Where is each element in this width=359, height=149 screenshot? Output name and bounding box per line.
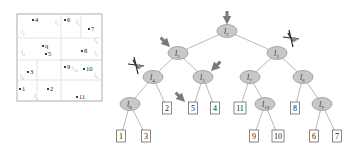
- leaf-node: 4: [211, 102, 220, 114]
- point-dot-icon: [19, 88, 21, 90]
- point-dot-icon: [88, 28, 90, 30]
- point-label: 1: [22, 85, 25, 92]
- leaf-label: 2: [165, 104, 169, 113]
- leaf-node: 5: [189, 102, 198, 114]
- leaf-label: 3: [144, 132, 148, 141]
- tree-node-l3: l3: [267, 47, 287, 60]
- point-label: 5: [48, 50, 51, 57]
- tree-node-l4: l4: [143, 71, 163, 84]
- leaf-node: 10: [272, 130, 284, 142]
- point-label: 3: [30, 68, 33, 75]
- point-dot-icon: [64, 19, 66, 21]
- leaf-label: 5: [191, 104, 195, 113]
- kd-tree-diagram: 467q5891031211 l2l4l8l5l1l3l6l7l10l9 l1l…: [0, 0, 359, 149]
- leaf-label: 9: [252, 132, 256, 141]
- point-label: 10: [86, 65, 93, 72]
- point-dot-icon: [81, 50, 83, 52]
- point-dot-icon: [27, 71, 29, 73]
- kd-tree: l1l2l3l4l5l7l6l8l10l9 2541181391067: [117, 11, 342, 142]
- leaf-label: 1: [119, 132, 123, 141]
- leaf-node: 11: [234, 102, 246, 114]
- leaf-label: 7: [335, 132, 339, 141]
- point-dot-icon: [64, 66, 66, 68]
- tree-node-l10: l10: [255, 98, 275, 111]
- leaf-node: 8: [291, 102, 300, 114]
- pruned-x-icon: [283, 30, 299, 47]
- leaf-label: 6: [312, 132, 316, 141]
- leaf-label: 11: [236, 104, 244, 113]
- leaf-label: 8: [293, 104, 297, 113]
- visit-arrow-icon: [214, 62, 220, 68]
- visit-arrow-icon: [176, 93, 182, 99]
- tree-node-l5: l5: [193, 71, 213, 84]
- leaf-label: 4: [213, 104, 217, 113]
- point-label: 2: [50, 85, 53, 92]
- leaf-nodes: 2541181391067: [117, 102, 342, 142]
- tree-node-l1: l1: [217, 25, 237, 38]
- leaf-node: 7: [333, 130, 342, 142]
- internal-nodes: l1l2l3l4l5l7l6l8l10l9: [120, 25, 332, 111]
- leaf-node: 2: [163, 102, 172, 114]
- tree-node-l6: l6: [293, 71, 313, 84]
- panel-border: [17, 14, 102, 101]
- point-dot-icon: [76, 96, 78, 98]
- tree-node-l7: l7: [240, 71, 260, 84]
- partition-panel: 467q5891031211 l2l4l8l5l1l3l6l7l10l9: [17, 14, 102, 101]
- point-label: 8: [84, 47, 87, 54]
- point-dot-icon: [42, 45, 44, 47]
- leaf-label: 10: [274, 132, 282, 141]
- leaf-node: 6: [310, 130, 319, 142]
- point-dot-icon: [32, 19, 34, 21]
- tree-node-l9: l9: [312, 98, 332, 111]
- tree-node-l2: l2: [168, 47, 188, 60]
- point-dot-icon: [47, 88, 49, 90]
- point-dot-icon: [83, 68, 85, 70]
- leaf-node: 1: [117, 130, 126, 142]
- point-label: 11: [79, 93, 85, 100]
- leaf-node: 3: [142, 130, 151, 142]
- tree-node-l8: l8: [120, 98, 140, 111]
- visit-arrow-icon: [161, 38, 167, 44]
- point-dot-icon: [45, 53, 47, 55]
- leaf-node: 9: [250, 130, 259, 142]
- point-label: 9: [67, 63, 70, 70]
- pruned-x-icon: [128, 57, 144, 74]
